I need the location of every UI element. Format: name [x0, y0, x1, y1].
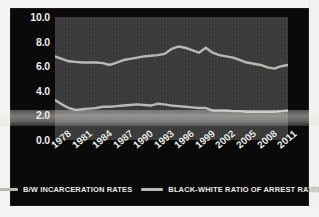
plot-area — [55, 17, 288, 140]
page-edge-top — [0, 0, 319, 9]
legend-item[interactable]: B/W INCARCERATION RATES — [0, 185, 132, 194]
plot-lines — [55, 17, 288, 140]
y-axis-tick-label: 8.0 — [14, 37, 50, 47]
y-axis-tick-label: 6.0 — [14, 61, 50, 71]
y-axis: 0.02.04.06.08.010.0 — [14, 13, 50, 143]
legend-line-swatch-icon — [0, 188, 18, 191]
chart-panel: 0.02.04.06.08.010.0 19781981198419871990… — [11, 9, 308, 205]
y-axis-tick-label: 0.0 — [14, 135, 50, 145]
chart-figure: 0.02.04.06.08.010.0 19781981198419871990… — [0, 0, 319, 217]
legend-item-label: B/W INCARCERATION RATES — [23, 185, 132, 194]
y-axis-tick-label: 2.0 — [14, 110, 50, 120]
chart-panel-inner: 0.02.04.06.08.010.0 19781981198419871990… — [11, 9, 308, 205]
legend-item[interactable]: BLACK-WHITE RATIO OF ARREST RATES — [141, 185, 319, 194]
y-axis-tick-label: 10.0 — [14, 12, 50, 22]
chart-legend: B/W INCARCERATION RATESBLACK-WHITE RATIO… — [11, 181, 308, 197]
series-line — [55, 47, 288, 69]
page-edge-bottom — [0, 205, 319, 217]
legend-item-label: BLACK-WHITE RATIO OF ARREST RATES — [168, 185, 319, 194]
y-axis-tick-label: 4.0 — [14, 86, 50, 96]
series-line — [55, 100, 288, 112]
x-axis: 1978198119841987199019931996199920022005… — [55, 142, 288, 182]
legend-line-swatch-icon — [141, 188, 163, 191]
x-axis-tick-label: 1978 — [49, 128, 73, 151]
